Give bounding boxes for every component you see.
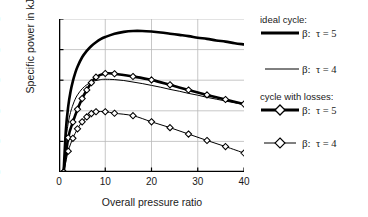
plot-svg (59, 19, 244, 172)
legend-beta-symbol: β: (302, 104, 311, 116)
legend-label-losses-tau5: β: τ = 5 (302, 103, 337, 118)
chart-legend: ideal cycle: β: τ = 5 β: τ = 4 cycle wit… (252, 0, 368, 217)
legend-swatch-thick-line (260, 26, 300, 40)
series-0 (64, 31, 244, 172)
legend-tau-value: τ = 5 (316, 28, 337, 39)
chart-area: Specific power in kJ/kg Overall pressure… (0, 0, 252, 217)
series-3 (61, 109, 244, 172)
legend-heading-ideal: ideal cycle: (260, 14, 307, 25)
series-1 (64, 79, 244, 172)
x-tick-label-10: 10 (90, 176, 120, 187)
legend-swatch-thin-diamond (260, 136, 300, 150)
legend-beta-symbol: β: (302, 27, 311, 39)
x-axis-label: Overall pressure ratio (59, 196, 245, 208)
legend-tau-value: τ = 4 (316, 138, 337, 149)
x-tick-label-0: 0 (44, 176, 74, 187)
legend-beta-symbol: β: (302, 63, 311, 75)
legend-label-losses-tau4: β: τ = 4 (302, 136, 337, 151)
plot-canvas (59, 19, 244, 172)
legend-tau-value: τ = 4 (316, 64, 337, 75)
legend-tau-value: τ = 5 (316, 105, 337, 116)
legend-label-ideal-tau5: β: τ = 5 (302, 26, 337, 41)
legend-label-ideal-tau4: β: τ = 4 (302, 62, 337, 77)
chart-figure: Specific power in kJ/kg Overall pressure… (0, 0, 368, 217)
legend-swatch-thick-diamond (260, 103, 300, 117)
y-axis-label: Specific power in kJ/kg (24, 0, 36, 119)
legend-heading-losses: cycle with losses: (260, 91, 333, 102)
x-tick-label-30: 30 (183, 176, 213, 187)
x-tick-label-20: 20 (137, 176, 167, 187)
legend-swatch-thin-line (260, 62, 300, 76)
legend-beta-symbol: β: (302, 137, 311, 149)
